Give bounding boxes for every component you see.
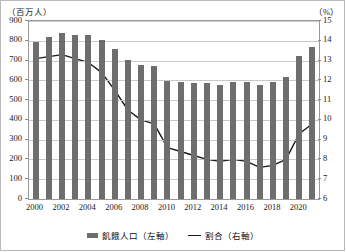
bar-2009 (151, 66, 157, 199)
legend-item-line: 割合（右軸） (188, 229, 259, 241)
bar-2008 (138, 65, 144, 199)
y-tick-right-14: 14 (323, 35, 345, 44)
bar-2005 (99, 40, 105, 199)
y-tickmark-left (25, 40, 28, 41)
y-tick-left-700: 700 (0, 55, 22, 64)
bar-2011 (178, 82, 184, 199)
y-tick-left-300: 300 (0, 134, 22, 143)
y-tickmark-left (25, 158, 28, 159)
bar-2014 (217, 85, 223, 199)
bar-2017 (257, 85, 263, 199)
y-tickmark-right (318, 139, 321, 140)
y-tick-right-9: 9 (323, 134, 345, 143)
bar-2003 (72, 35, 78, 199)
bar-2018 (270, 82, 276, 199)
y-tick-left-400: 400 (0, 114, 22, 123)
y-tick-right-10: 10 (323, 114, 345, 123)
y-tick-left-500: 500 (0, 95, 22, 104)
y-tick-right-7: 7 (323, 174, 345, 183)
y-tickmark-right (318, 60, 321, 61)
plot-area (28, 20, 320, 200)
bar-2001 (46, 37, 52, 199)
y-tickmark-right (318, 178, 321, 179)
x-tick-2020: 2020 (283, 202, 313, 212)
line-swatch-icon (188, 235, 201, 236)
y-tickmark-left (25, 79, 28, 80)
y-tick-right-12: 12 (323, 75, 345, 84)
bar-swatch-icon (87, 233, 98, 238)
y-tickmark-right (318, 198, 321, 199)
y-tickmark-right (318, 119, 321, 120)
chart-figure: （百万人） （%） 0100200300400500600700800900 6… (0, 0, 345, 251)
y-tick-right-15: 15 (323, 16, 345, 25)
y-tick-left-600: 600 (0, 75, 22, 84)
y-tickmark-left (25, 139, 28, 140)
y-tickmark-left (25, 198, 28, 199)
bar-2016 (244, 82, 250, 199)
y-tickmark-right (318, 20, 321, 21)
y-tick-right-6: 6 (323, 194, 345, 203)
y-tick-left-900: 900 (0, 16, 22, 25)
y-tickmark-right (318, 79, 321, 80)
y-tickmark-left (25, 20, 28, 21)
y-tick-left-100: 100 (0, 174, 22, 183)
y-tickmark-left (25, 119, 28, 120)
bar-2020 (296, 56, 302, 199)
bar-2002 (59, 33, 65, 199)
legend-label-line: 割合（右軸） (205, 229, 259, 241)
y-tickmark-right (318, 158, 321, 159)
y-tickmark-left (25, 60, 28, 61)
bar-2007 (125, 60, 131, 199)
bar-2000 (33, 42, 39, 199)
y-tickmark-right (318, 99, 321, 100)
chart-legend: 飢餓人口（左軸） 割合（右軸） (1, 229, 344, 241)
legend-item-bar: 飢餓人口（左軸） (87, 229, 174, 241)
y-tick-right-11: 11 (323, 95, 345, 104)
y-tick-left-800: 800 (0, 35, 22, 44)
y-tick-left-200: 200 (0, 154, 22, 163)
y-tickmark-right (318, 40, 321, 41)
bar-2006 (112, 49, 118, 199)
y-tickmark-left (25, 178, 28, 179)
y-tick-right-8: 8 (323, 154, 345, 163)
y-tick-right-13: 13 (323, 55, 345, 64)
bar-2012 (191, 83, 197, 200)
bar-2004 (85, 35, 91, 199)
bar-2021 (309, 47, 315, 199)
bar-2019 (283, 77, 289, 199)
y-tickmark-left (25, 99, 28, 100)
bar-2013 (204, 83, 210, 199)
legend-label-bar: 飢餓人口（左軸） (102, 229, 174, 241)
bar-2015 (230, 82, 236, 199)
bar-series (29, 21, 319, 199)
bar-2010 (164, 81, 170, 199)
